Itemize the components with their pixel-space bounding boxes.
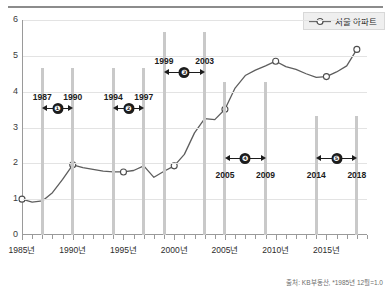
x-axis-tick (83, 235, 84, 239)
annotation-badge: ❷ (123, 103, 134, 114)
x-axis-tick-label: 1995년 (110, 243, 137, 255)
y-axis-tick-label: 1 (13, 193, 18, 203)
plot-area: 01234561985년1990년1995년2000년2005년2010년201… (22, 20, 367, 235)
gridline (23, 20, 367, 21)
y-axis-tick-label: 3 (13, 122, 18, 132)
x-axis-tick (337, 235, 338, 239)
annotation-year-label: 1987 (33, 92, 52, 102)
x-axis-tick-label: 1990년 (59, 243, 86, 255)
arrow-right-icon (68, 105, 73, 111)
x-axis-tick (134, 235, 135, 239)
x-axis-tick (154, 235, 155, 239)
x-axis-tick-label: 2005년 (211, 243, 238, 255)
x-axis-tick (205, 235, 206, 239)
x-axis-tick (266, 235, 267, 239)
annotation-badge: ❶ (52, 103, 63, 114)
x-axis-tick (22, 235, 23, 240)
annotation-year-label: 2018 (347, 170, 366, 180)
data-point-marker (273, 58, 279, 64)
x-axis-tick (286, 235, 287, 239)
y-axis-tick-label: 5 (13, 50, 18, 60)
x-axis-tick (326, 235, 327, 240)
annotation-badge: ❹ (240, 153, 251, 164)
annotation-year-label: 1994 (104, 92, 123, 102)
x-axis-tick (225, 235, 226, 240)
x-axis-tick (174, 235, 175, 240)
y-axis-tick-label: 2 (13, 157, 18, 167)
annotation-badge: ❺ (331, 153, 342, 164)
x-axis-tick (235, 235, 236, 239)
x-axis-tick (347, 235, 348, 239)
x-axis-tick (255, 235, 256, 239)
annotation-year-label: 2003 (195, 56, 214, 66)
x-axis-tick (357, 235, 358, 239)
source-note: 출처: KB부동산, *1985년 12월=1.0 (286, 277, 383, 287)
annotation-year-label: 2005 (215, 170, 234, 180)
x-axis-tick (316, 235, 317, 239)
x-axis-tick (195, 235, 196, 239)
annotation-badge: ❸ (179, 67, 190, 78)
x-axis-tick (103, 235, 104, 239)
x-axis-tick-label: 2000년 (161, 243, 188, 255)
annotation-year-label: 1999 (155, 56, 174, 66)
arrow-right-icon (139, 105, 144, 111)
x-axis-tick (215, 235, 216, 239)
data-point-marker (120, 169, 126, 175)
data-point-marker (323, 74, 329, 80)
y-axis-tick-label: 0 (13, 229, 18, 239)
x-axis-tick (245, 235, 246, 239)
x-axis-tick (73, 235, 74, 240)
x-axis-tick-label: 2015년 (313, 243, 340, 255)
x-axis-tick (184, 235, 185, 239)
x-axis-tick (296, 235, 297, 239)
arrow-right-icon (200, 69, 205, 75)
data-point-marker (354, 46, 360, 52)
y-axis-tick-label: 6 (13, 14, 18, 24)
x-axis-tick (123, 235, 124, 240)
x-axis-tick (306, 235, 307, 239)
x-axis-tick (276, 235, 277, 240)
y-axis-tick-label: 4 (13, 86, 18, 96)
arrow-right-icon (352, 155, 357, 161)
x-axis-tick (93, 235, 94, 239)
x-axis-tick (367, 235, 368, 239)
x-axis-tick (32, 235, 33, 239)
arrow-right-icon (261, 155, 266, 161)
chart-screenshot: 서울 아파트 01234561985년1990년1995년2000년2005년2… (0, 0, 391, 292)
header-divider (8, 6, 383, 8)
x-axis-tick (144, 235, 145, 239)
x-axis-tick (42, 235, 43, 239)
annotation-year-label: 2014 (307, 170, 326, 180)
annotation-year-label: 2009 (256, 170, 275, 180)
x-axis-tick-label: 1985년 (9, 243, 36, 255)
x-axis-tick-label: 2010년 (262, 243, 289, 255)
x-axis-tick (52, 235, 53, 239)
x-axis-tick (113, 235, 114, 239)
x-axis-tick (63, 235, 64, 239)
annotation-year-label: 1997 (134, 92, 153, 102)
annotation-year-label: 1990 (63, 92, 82, 102)
x-axis-tick (164, 235, 165, 239)
